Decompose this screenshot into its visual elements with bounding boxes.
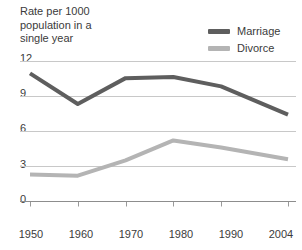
series-line-divorce (30, 140, 288, 175)
chart-series-layer (30, 73, 288, 175)
chart-plot-area (0, 0, 302, 250)
chart-container: Rate per 1000 population in a single yea… (0, 0, 302, 250)
chart-x-tickmarks (31, 202, 289, 207)
series-line-marriage (30, 73, 288, 114)
